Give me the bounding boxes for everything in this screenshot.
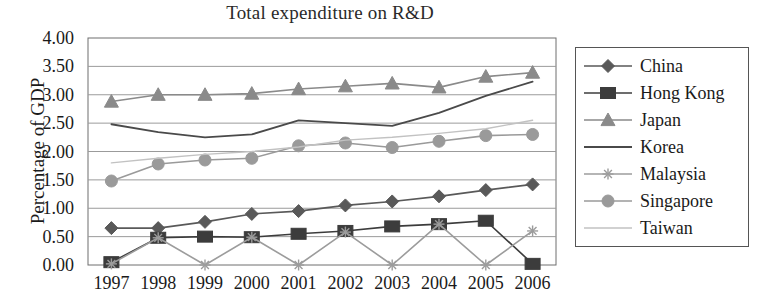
legend-label: Korea	[640, 138, 684, 156]
data-point-star	[480, 260, 491, 271]
data-point-star	[340, 227, 351, 238]
data-point-circle	[246, 152, 258, 164]
legend-label: Hong Kong	[640, 84, 725, 102]
legend-item-korea[interactable]: Korea	[576, 133, 748, 160]
data-point-square	[525, 258, 540, 269]
data-point-square	[291, 228, 306, 239]
data-point-diamond	[602, 59, 615, 72]
legend-marker-diamond-icon	[582, 56, 634, 76]
legend-label: Malaysia	[640, 165, 706, 183]
legend-item-taiwan[interactable]: Taiwan	[576, 214, 748, 241]
data-point-star	[246, 232, 257, 243]
data-point-square	[385, 221, 400, 232]
data-point-circle	[602, 195, 614, 207]
chart-figure: Total expenditure on R&D Percentage of G…	[0, 0, 757, 307]
chart-legend: ChinaHong KongJapanKoreaMalaysiaSingapor…	[575, 47, 749, 247]
legend-item-china[interactable]: China	[576, 52, 748, 79]
data-point-star	[527, 225, 538, 236]
data-point-square	[601, 87, 616, 98]
data-point-circle	[152, 158, 164, 170]
data-point-circle	[386, 142, 398, 154]
data-point-circle	[480, 130, 492, 142]
data-point-star	[153, 232, 164, 243]
data-point-star	[293, 260, 304, 271]
data-point-star	[434, 219, 445, 230]
legend-marker-none-icon	[582, 137, 634, 157]
data-point-circle	[433, 135, 445, 147]
legend-marker-star-icon	[582, 164, 634, 184]
data-point-square	[478, 215, 493, 226]
legend-label: China	[640, 57, 683, 75]
legend-item-hong-kong[interactable]: Hong Kong	[576, 79, 748, 106]
data-point-star	[603, 168, 614, 179]
data-point-star	[387, 260, 398, 271]
data-point-square	[198, 231, 213, 242]
legend-label: Singapore	[640, 192, 713, 210]
legend-marker-circle-icon	[582, 191, 634, 211]
legend-marker-triangle-icon	[582, 110, 634, 130]
legend-item-singapore[interactable]: Singapore	[576, 187, 748, 214]
legend-item-malaysia[interactable]: Malaysia	[576, 160, 748, 187]
data-point-circle	[339, 137, 351, 149]
legend-marker-square-icon	[582, 83, 634, 103]
legend-label: Taiwan	[640, 219, 693, 237]
legend-item-japan[interactable]: Japan	[576, 106, 748, 133]
legend-marker-none-icon	[582, 218, 634, 238]
data-point-circle	[527, 128, 539, 140]
legend-label: Japan	[640, 111, 681, 129]
data-point-circle	[199, 154, 211, 166]
data-point-star	[106, 258, 117, 269]
data-point-star	[200, 260, 211, 271]
data-point-circle	[105, 175, 117, 187]
